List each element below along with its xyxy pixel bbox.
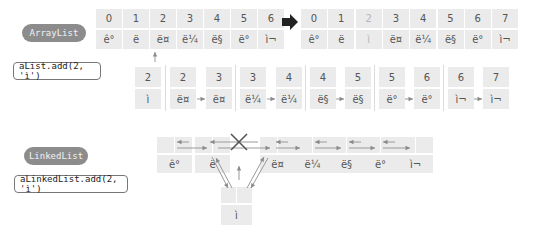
diagram-arrows xyxy=(0,0,533,239)
